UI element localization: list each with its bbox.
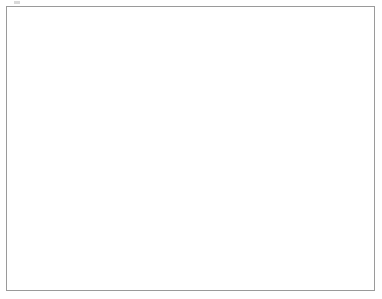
- figure-outer-frame: [6, 6, 375, 291]
- scan-artifact: [14, 1, 20, 4]
- chart-figure: 010203040 -5051015 Pre-test Total Score …: [0, 0, 382, 299]
